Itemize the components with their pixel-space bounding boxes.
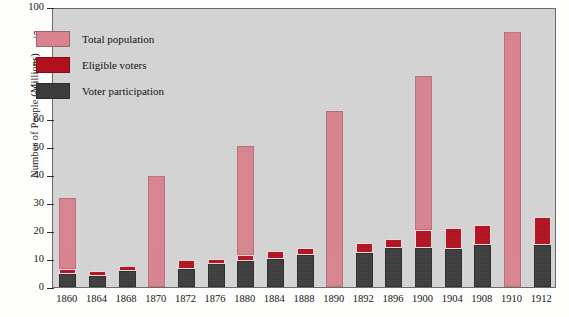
x-axis-label: 1870 [141,293,171,304]
x-axis-label: 1908 [467,293,497,304]
dark-swatch [36,83,70,99]
bar-segment-total-population [504,32,521,287]
bar-segment-eligible-voters [267,251,284,259]
x-axis-label: 1896 [378,293,408,304]
y-tick-label: 100 [28,1,44,12]
bar-segment-eligible-voters [178,260,195,268]
bar-segment-voter-participation [474,245,491,287]
y-tick-mark [47,176,54,177]
bar-group[interactable] [326,111,343,287]
x-axis-label: 1904 [437,293,467,304]
legend-item[interactable]: Voter participation [36,80,164,101]
y-tick-label: 60 [34,113,45,124]
bar-segment-voter-participation [208,264,225,287]
y-tick-mark [47,204,54,205]
bar-segment-voter-participation [385,248,402,287]
bar-segment-voter-participation [89,276,106,287]
x-axis-label: 1864 [82,293,112,304]
bar-group[interactable] [237,146,254,287]
x-axis-label: 1876 [200,293,230,304]
y-tick-mark [47,148,54,149]
bar-group[interactable] [385,239,402,287]
bar-segment-voter-participation [59,274,76,287]
bar-segment-voter-participation [297,255,314,287]
bar-segment-voter-participation [534,245,551,287]
bar-segment-eligible-voters [356,243,373,253]
bar-segment-voter-participation [356,253,373,287]
bar-segment-total-population [415,76,432,230]
bar-group[interactable] [89,271,106,287]
bar-segment-voter-participation [178,269,195,287]
bar-group[interactable] [534,217,551,287]
bar-group[interactable] [267,251,284,287]
x-axis-label: 1888 [289,293,319,304]
chart-legend: Total populationEligible votersVoter par… [36,28,164,106]
y-tick-label: 30 [34,197,45,208]
y-tick-label: 50 [34,141,45,152]
bar-segment-voter-participation [237,261,254,287]
legend-label: Voter participation [82,85,164,97]
bar-segment-eligible-voters [415,230,432,248]
bar-group[interactable] [208,259,225,287]
bar-segment-eligible-voters [534,217,551,245]
x-axis-label: 1884 [260,293,290,304]
x-axis-label: 1860 [52,293,82,304]
bar-group[interactable] [474,225,491,287]
x-axis-label: 1868 [111,293,141,304]
bar-segment-eligible-voters [445,228,462,249]
bar-group[interactable] [178,260,195,287]
bar-group[interactable] [356,243,373,287]
y-tick-mark [47,120,54,121]
legend-item[interactable]: Eligible voters [36,54,164,75]
y-tick-mark [47,232,54,233]
y-tick-mark [47,260,54,261]
bar-group[interactable] [504,32,521,287]
x-axis-label: 1900 [408,293,438,304]
y-tick-label: 0 [39,281,44,292]
bar-segment-total-population [326,111,343,287]
bar-segment-total-population [148,176,165,287]
bar-segment-voter-participation [415,248,432,287]
legend-label: Eligible voters [82,59,146,71]
chart-figure: Number of People (Millions) 010203040506… [0,0,569,317]
red-swatch [36,57,70,73]
bar-segment-eligible-voters [474,225,491,245]
bar-segment-voter-participation [445,249,462,287]
bar-segment-total-population [237,146,254,255]
bar-segment-voter-participation [267,259,284,287]
x-axis-label: 1892 [348,293,378,304]
bar-group[interactable] [415,76,432,287]
y-tick-label: 20 [34,225,45,236]
y-tick-label: 40 [34,169,45,180]
bar-group[interactable] [445,228,462,287]
x-axis-label: 1912 [526,293,556,304]
x-axis-label: 1910 [497,293,527,304]
bar-segment-voter-participation [119,271,136,287]
x-axis-label: 1872 [171,293,201,304]
bar-group[interactable] [148,176,165,287]
y-tick-label: 10 [34,253,45,264]
legend-item[interactable]: Total population [36,28,164,49]
x-axis-label: 1880 [230,293,260,304]
x-axis-label: 1890 [319,293,349,304]
bar-group[interactable] [297,248,314,287]
bar-group[interactable] [59,198,76,287]
y-tick-mark [47,288,54,289]
pink-swatch [36,31,70,47]
bar-segment-total-population [59,198,76,269]
legend-label: Total population [82,33,154,45]
bar-segment-eligible-voters [297,248,314,255]
y-tick-mark [47,8,54,9]
bar-segment-eligible-voters [385,239,402,248]
bar-group[interactable] [119,266,136,287]
